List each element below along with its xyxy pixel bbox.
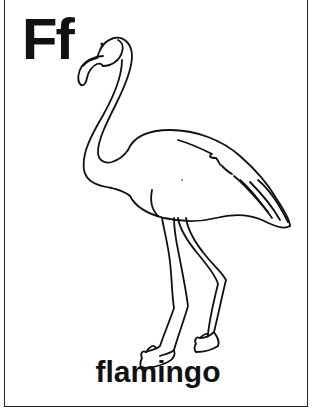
word-label: flamingo — [0, 356, 316, 388]
flamingo-illustration-icon — [0, 0, 316, 412]
